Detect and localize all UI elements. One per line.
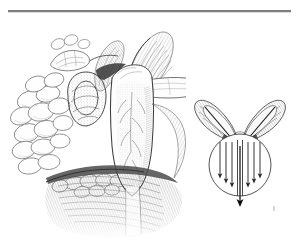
illustration-plate: Surgical anatomy plate with schematic in… — [0, 0, 300, 241]
left-fade — [0, 13, 26, 241]
plate-top-rule — [8, 11, 291, 12]
bottom-fade — [0, 186, 190, 241]
anatomical-figure — [0, 0, 300, 241]
